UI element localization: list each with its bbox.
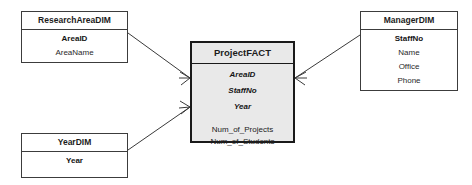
- fact-measure-num-of-students: Num_of_Students: [194, 136, 291, 148]
- entity-title-yeardim: YearDIM: [22, 134, 127, 152]
- entity-empty-space: [24, 168, 125, 182]
- attribute-phone: Phone: [363, 74, 455, 88]
- attribute-areaid: AreaID: [24, 32, 125, 46]
- er-diagram-canvas: ResearchAreaDIM AreaID AreaName YearDIM …: [0, 0, 472, 185]
- entity-attributes-researchareadim: AreaID AreaName: [22, 30, 127, 62]
- entity-title-projectfact: ProjectFACT: [192, 43, 293, 64]
- entity-researchareadim[interactable]: ResearchAreaDIM AreaID AreaName: [21, 11, 128, 63]
- entity-managerdim[interactable]: ManagerDIM StaffNo Name Office Phone: [360, 11, 458, 91]
- attribute-areaname: AreaName: [24, 46, 125, 60]
- entity-yeardim[interactable]: YearDIM Year: [21, 133, 128, 178]
- attribute-name: Name: [363, 46, 455, 60]
- fact-measure-num-of-projects: Num_of_Projects: [194, 124, 291, 136]
- fact-fk-year: Year: [194, 99, 291, 115]
- entity-title-managerdim: ManagerDIM: [361, 12, 457, 30]
- attribute-year: Year: [24, 154, 125, 168]
- relationship-manager-fact: [295, 35, 360, 85]
- entity-attributes-managerdim: StaffNo Name Office Phone: [361, 30, 457, 90]
- entity-projectfact[interactable]: ProjectFACT AreaID StaffNo Year Num_of_P…: [190, 41, 295, 143]
- attribute-office: Office: [363, 60, 455, 74]
- entity-title-researchareadim: ResearchAreaDIM: [22, 12, 127, 30]
- relationship-researcharea-fact: [128, 33, 190, 85]
- relationship-year-fact: [128, 101, 190, 150]
- fact-fk-areaid: AreaID: [194, 67, 291, 83]
- fact-fk-staffno: StaffNo: [194, 83, 291, 99]
- attribute-staffno: StaffNo: [363, 32, 455, 46]
- entity-attributes-projectfact: AreaID StaffNo Year Num_of_Projects Num_…: [192, 64, 293, 150]
- entity-attributes-yeardim: Year: [22, 152, 127, 184]
- crows-foot-year: [179, 101, 190, 114]
- fact-section-separator: [194, 115, 291, 124]
